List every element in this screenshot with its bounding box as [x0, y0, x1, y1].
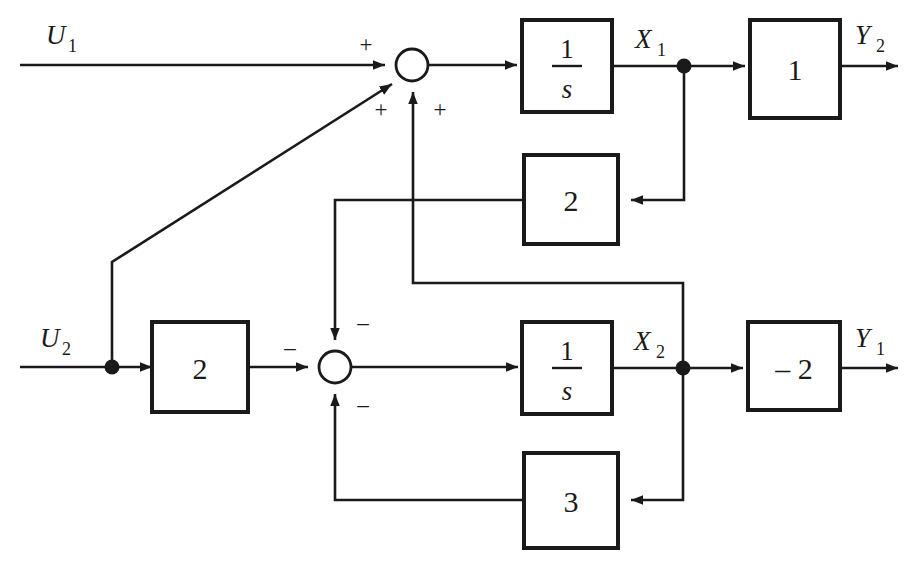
state-label-x1: X [634, 24, 653, 54]
diagram-svg: 1 s 1 s 1 2 2 3 – 2 U 1 U 2 X 1 X 2 Y 2 [0, 0, 915, 572]
sign-sum-bottom-south: – [356, 392, 369, 417]
state-subscript-x2: 2 [656, 342, 665, 362]
input-subscript-u1: 1 [68, 36, 77, 56]
sign-sum-top-south: + [434, 97, 447, 122]
input-subscript-u2: 2 [62, 339, 71, 359]
wire-x2-feedback-to-gain3 [631, 368, 683, 500]
sign-sum-top-west: + [360, 32, 373, 57]
gain-output-top-value: 1 [788, 53, 803, 86]
gain-output-bottom-value: – 2 [774, 352, 813, 385]
sign-sum-bottom-north: – [356, 310, 369, 335]
sign-sum-bottom-west: – [283, 335, 296, 360]
block-diagram-canvas: 1 s 1 s 1 2 2 3 – 2 U 1 U 2 X 1 X 2 Y 2 [0, 0, 915, 572]
input-label-u2: U [40, 323, 61, 353]
output-subscript-y2: 2 [876, 36, 885, 56]
summing-junction-top [396, 49, 428, 81]
summing-junction-bottom [319, 351, 351, 383]
branch-dot-x1 [677, 59, 692, 74]
integrator-1-denominator: s [562, 74, 573, 104]
integrator-2-numerator: 1 [560, 336, 574, 366]
sign-sum-top-southwest: + [375, 97, 388, 122]
integrator-1-numerator: 1 [560, 34, 574, 64]
output-subscript-y1: 1 [876, 339, 885, 359]
state-label-x2: X [633, 326, 652, 356]
branch-dot-x2 [676, 361, 691, 376]
state-subscript-x1: 1 [657, 40, 666, 60]
branch-dot-u2 [105, 360, 120, 375]
output-label-y2: Y [855, 20, 873, 50]
gain-feedback-2-top-value: 2 [564, 184, 579, 217]
gain-input-2-bottom-value: 2 [193, 352, 208, 385]
input-label-u1: U [46, 20, 67, 50]
integrator-2-denominator: s [562, 376, 573, 406]
output-label-y1: Y [855, 323, 873, 353]
wire-x1-feedback-to-gain2 [631, 66, 684, 200]
gain-feedback-3-bottom-value: 3 [564, 485, 579, 518]
